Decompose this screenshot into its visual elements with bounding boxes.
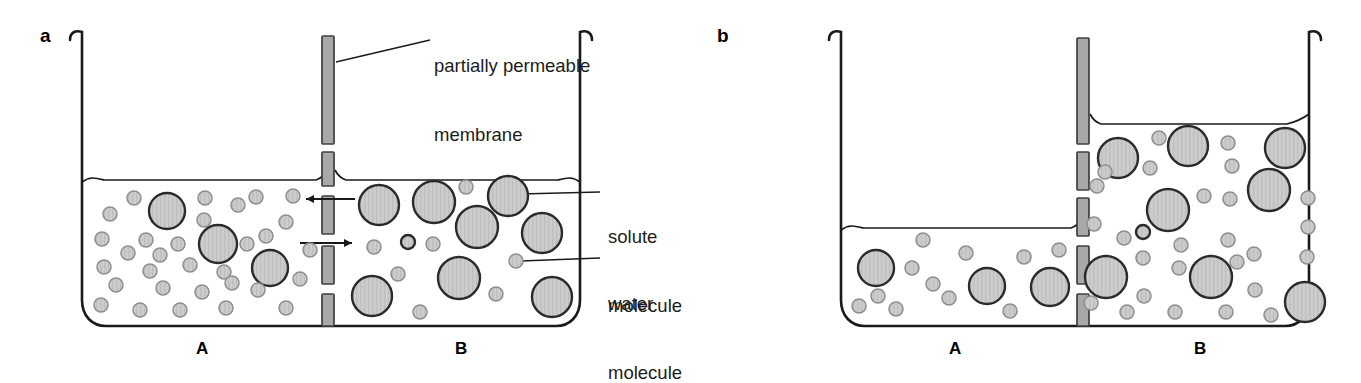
- liquid-surface-side-b: [1090, 114, 1309, 124]
- water-molecule: [1136, 251, 1150, 265]
- water-molecule: [1090, 179, 1104, 193]
- solute-molecule: [359, 185, 399, 225]
- water-molecule: [156, 281, 170, 295]
- water-molecule: [143, 264, 157, 278]
- water-molecule: [1174, 238, 1188, 252]
- water-molecule: [219, 301, 233, 315]
- panel-b-graphic: [681, 0, 1361, 375]
- water-molecule: [279, 215, 293, 229]
- water-molecule: [95, 232, 109, 246]
- water-molecule: [1087, 217, 1101, 231]
- water-molecule: [1225, 159, 1239, 173]
- panel-a: a: [0, 0, 680, 375]
- water-molecule: [1168, 305, 1182, 319]
- water-molecule: [97, 260, 111, 274]
- water-molecule: [198, 191, 212, 205]
- water-molecule: [1017, 250, 1031, 264]
- water-molecule: [509, 254, 523, 268]
- water-molecule: [916, 233, 930, 247]
- solute-molecule: [969, 268, 1005, 304]
- water-molecule: [1117, 231, 1131, 245]
- water-molecule: [1301, 191, 1315, 205]
- water-label: water molecule: [608, 246, 682, 383]
- water-molecule: [259, 229, 273, 243]
- solute-molecule: [1190, 256, 1232, 298]
- water-molecule: [1221, 136, 1235, 150]
- water-molecule: [1219, 305, 1233, 319]
- compartment-b-label: B: [455, 339, 467, 359]
- solute-molecule: [1085, 256, 1127, 298]
- water-molecule: [173, 303, 187, 317]
- water-molecule: [1137, 289, 1151, 303]
- water-molecule: [1221, 233, 1235, 247]
- compartment-a-label-b: A: [949, 339, 961, 359]
- water-molecule: [1098, 165, 1112, 179]
- solute-molecule: [1031, 268, 1069, 306]
- beaker-outline-b: [829, 31, 1321, 326]
- water-molecule: [413, 305, 427, 319]
- water-molecule: [249, 190, 263, 204]
- compartment-a-label: A: [196, 339, 208, 359]
- water-molecule: [1143, 161, 1157, 175]
- water-molecule: [926, 277, 940, 291]
- water-molecule: [303, 243, 317, 257]
- water-molecule: [94, 298, 108, 312]
- water-molecule: [1152, 131, 1166, 145]
- water-molecule: [889, 302, 903, 316]
- solute-molecule: [1147, 189, 1189, 231]
- water-molecule: [279, 301, 293, 315]
- water-molecule: [139, 233, 153, 247]
- water-molecule: [197, 213, 211, 227]
- water-molecule: [1223, 192, 1237, 206]
- compartment-b-label-b: B: [1194, 339, 1206, 359]
- solute-molecule: [149, 193, 185, 229]
- water-molecule: [133, 303, 147, 317]
- partially-permeable-membrane-a: [322, 36, 334, 326]
- water-molecule: [195, 285, 209, 299]
- water-molecule: [489, 287, 503, 301]
- solute-molecule: [532, 277, 572, 317]
- water-molecule: [942, 291, 956, 305]
- water-molecule: [1197, 189, 1211, 203]
- solute-molecule: [1285, 282, 1325, 322]
- water-molecule: [240, 237, 254, 251]
- solute-molecule: [252, 250, 288, 286]
- solute-molecule: [456, 206, 498, 248]
- water-molecule: [109, 278, 123, 292]
- solute-molecule: [522, 213, 562, 253]
- water-molecule: [1003, 304, 1017, 318]
- water-molecule: [251, 283, 265, 297]
- side-b-molecules-b: [1084, 126, 1325, 322]
- solute-molecule: [1248, 169, 1290, 211]
- water-molecule: [171, 237, 185, 251]
- solute-molecule-small: [1136, 225, 1150, 239]
- water-molecule: [183, 258, 197, 272]
- water-molecule: [1248, 283, 1262, 297]
- solute-molecule: [199, 225, 237, 263]
- side-a-molecules: [94, 189, 317, 317]
- liquid-surface-b: [841, 114, 1309, 230]
- solute-molecule: [1265, 128, 1305, 168]
- water-molecule: [127, 191, 141, 205]
- solute-molecule: [1168, 126, 1208, 166]
- side-b-molecules: [352, 176, 572, 319]
- solute-leader-line: [520, 192, 600, 194]
- water-molecule: [959, 246, 973, 260]
- water-molecule: [1264, 308, 1278, 322]
- water-molecule: [1084, 296, 1098, 310]
- membrane-leader-line: [336, 40, 430, 62]
- water-molecule: [103, 207, 117, 221]
- membrane-label: partially permeable membrane: [434, 8, 590, 192]
- water-molecule: [231, 198, 245, 212]
- solute-molecule: [858, 250, 894, 286]
- water-molecule: [225, 276, 239, 290]
- water-molecule: [121, 246, 135, 260]
- water-molecule: [871, 289, 885, 303]
- water-molecule: [1301, 220, 1315, 234]
- side-a-molecules-b: [852, 233, 1069, 318]
- water-molecule: [852, 299, 866, 313]
- water-molecule: [1120, 305, 1134, 319]
- water-molecule: [426, 237, 440, 251]
- water-molecule: [391, 267, 405, 281]
- water-molecule: [153, 248, 167, 262]
